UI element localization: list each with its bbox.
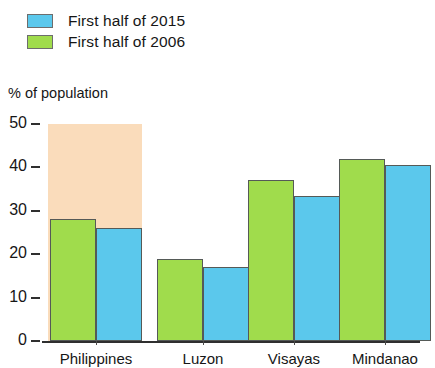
chart-legend: First half of 2015 First half of 2006 — [27, 10, 185, 52]
bar-mindanao-2015 — [385, 165, 431, 341]
bar-luzon-2006 — [157, 259, 203, 341]
y-tick-mark — [31, 297, 40, 299]
y-tick-mark — [31, 123, 40, 125]
bar-visayas-2015 — [294, 196, 340, 341]
plot-area: 01020304050 — [48, 124, 420, 341]
x-tick-visayas — [294, 341, 295, 345]
bar-luzon-2015 — [203, 267, 249, 341]
y-tick-label: 50 — [9, 114, 27, 132]
y-tick-label: 10 — [9, 288, 27, 306]
y-tick-label: 20 — [9, 244, 27, 262]
legend-item-2015: First half of 2015 — [27, 10, 185, 31]
bar-visayas-2006 — [248, 180, 294, 341]
y-tick-mark — [31, 340, 40, 342]
y-axis-title: % of population — [8, 85, 108, 101]
x-tick-luzon — [203, 341, 204, 345]
x-tick-mindanao — [385, 341, 386, 345]
x-axis-label-visayas: Visayas — [244, 350, 344, 367]
x-tick-philippines — [96, 341, 97, 345]
y-tick-mark — [31, 253, 40, 255]
legend-label-2015: First half of 2015 — [68, 12, 185, 30]
bar-philippines-2006 — [50, 219, 96, 341]
y-tick-mark — [31, 210, 40, 212]
x-axis-label-philippines: Philippines — [46, 350, 146, 367]
x-axis-label-mindanao: Mindanao — [335, 350, 435, 367]
legend-item-2006: First half of 2006 — [27, 31, 185, 52]
y-tick-label: 30 — [9, 201, 27, 219]
bar-philippines-2015 — [96, 228, 142, 341]
y-tick-mark — [31, 166, 40, 168]
x-axis-line — [42, 341, 420, 343]
y-tick-label: 40 — [9, 157, 27, 175]
legend-swatch-2015 — [27, 14, 53, 28]
legend-label-2006: First half of 2006 — [68, 33, 185, 51]
y-tick-label: 0 — [18, 331, 27, 349]
x-axis-label-luzon: Luzon — [153, 350, 253, 367]
bar-mindanao-2006 — [339, 159, 385, 341]
legend-swatch-2006 — [27, 35, 53, 49]
